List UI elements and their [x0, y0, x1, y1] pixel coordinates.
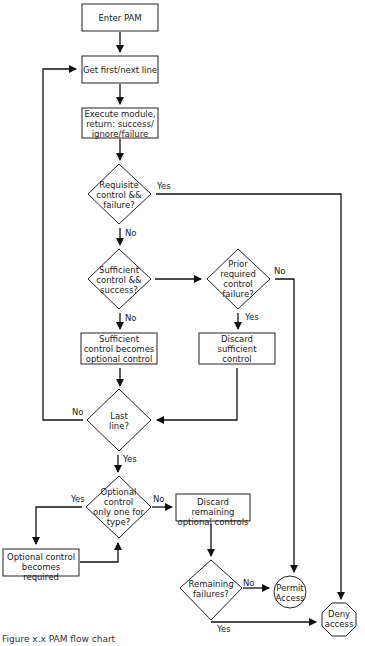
deny-label: Deny access: [322, 609, 356, 629]
optional-only-label: Optional control only one for type?: [86, 487, 151, 527]
last-line-label: Last line?: [87, 411, 151, 431]
edge-label-sufficient-no: No: [125, 313, 137, 323]
sufficient-label: Sufficient control && success?: [88, 265, 150, 295]
edge-label-prior-no: No: [274, 266, 286, 276]
figure-caption: Figure x.x PAM flow chart: [2, 634, 115, 644]
edge-label-prior-yes: Yes: [245, 312, 259, 322]
opt-required-label: Optional control becomes required: [3, 552, 79, 582]
edge-label-optional-no: No: [153, 494, 165, 504]
requisite-label: Requisite control && failure?: [88, 180, 150, 210]
remaining-label: Remaining failures?: [180, 579, 242, 599]
edge-label-last-no: No: [72, 407, 84, 417]
edge-label-remaining-yes: Yes: [217, 624, 231, 634]
discard-suff-label: Discard sufficient control: [199, 334, 275, 364]
execute-label: Execute module, return: success/ ignore/…: [82, 109, 158, 139]
edge-label-requisite-yes: Yes: [157, 181, 171, 191]
flowchart-canvas: [0, 0, 365, 646]
discard-remaining-label: Discard remaining optional controls: [176, 497, 250, 527]
get-line-label: Get first/next line: [82, 65, 158, 75]
edge-label-remaining-no: No: [243, 578, 255, 588]
enter-pam-label: Enter PAM: [82, 13, 158, 23]
edge-label-last-yes: Yes: [123, 454, 137, 464]
permit-label: Permit Access: [274, 583, 306, 603]
suff-optional-label: Sufficient control becomes optional cont…: [81, 334, 157, 364]
edge-label-requisite-no: No: [125, 228, 137, 238]
edge-label-optional-yes: Yes: [71, 494, 85, 504]
prior-label: Prior required control failure?: [207, 259, 269, 299]
